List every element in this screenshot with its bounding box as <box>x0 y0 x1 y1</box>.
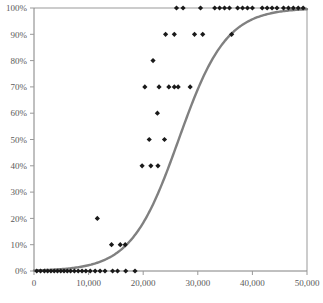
y-tick-label: 80% <box>11 56 28 66</box>
data-point-marker <box>240 5 245 10</box>
y-tick-label: 60% <box>11 108 28 118</box>
logistic-scatter-chart: 0%10%20%30%40%50%60%70%80%90%100% 010,00… <box>0 0 323 303</box>
plot-frame <box>34 8 307 271</box>
data-point-marker <box>115 268 120 273</box>
y-tick-label: 90% <box>11 30 28 40</box>
x-tick-label: 50,000 <box>295 278 320 288</box>
y-tick-label: 0% <box>15 266 28 276</box>
data-point-marker <box>156 84 161 89</box>
data-point-marker <box>97 268 102 273</box>
data-point-marker <box>174 5 179 10</box>
data-point-marker <box>162 137 167 142</box>
data-point-marker <box>265 5 270 10</box>
data-point-marker <box>188 84 193 89</box>
y-tick-label: 30% <box>11 187 28 197</box>
data-points <box>34 5 306 273</box>
data-point-marker <box>93 268 98 273</box>
data-point-marker <box>212 5 217 10</box>
y-tick-label: 20% <box>11 214 28 224</box>
data-point-marker <box>102 268 107 273</box>
x-tick-label: 10,000 <box>76 278 101 288</box>
chart-container: 0%10%20%30%40%50%60%70%80%90%100% 010,00… <box>0 0 323 303</box>
y-axis-ticks: 0%10%20%30%40%50%60%70%80%90%100% <box>6 3 34 276</box>
y-tick-label: 100% <box>6 3 28 13</box>
x-tick-label: 0 <box>32 278 37 288</box>
data-point-marker <box>250 5 255 10</box>
data-point-marker <box>166 84 171 89</box>
data-point-marker <box>150 58 155 63</box>
data-point-marker <box>109 242 114 247</box>
data-point-marker <box>118 242 123 247</box>
data-point-marker <box>269 5 274 10</box>
data-point-marker <box>172 32 177 37</box>
y-tick-label: 10% <box>11 240 28 250</box>
data-point-marker <box>198 5 203 10</box>
data-point-marker <box>132 268 137 273</box>
data-point-marker <box>192 32 197 37</box>
data-point-marker <box>180 5 185 10</box>
data-point-marker <box>155 111 160 116</box>
y-tick-label: 50% <box>11 135 28 145</box>
data-point-marker <box>110 268 115 273</box>
data-point-marker <box>155 163 160 168</box>
data-point-marker <box>163 32 168 37</box>
y-tick-label: 70% <box>11 82 28 92</box>
x-tick-label: 40,000 <box>240 278 265 288</box>
data-point-marker <box>260 5 265 10</box>
data-point-marker <box>200 32 205 37</box>
x-axis-ticks: 010,00020,00030,00040,00050,000 <box>32 271 320 288</box>
data-point-marker <box>274 5 279 10</box>
data-point-marker <box>147 137 152 142</box>
data-point-marker <box>245 5 250 10</box>
data-point-marker <box>217 5 222 10</box>
data-point-marker <box>123 268 128 273</box>
data-point-marker <box>140 163 145 168</box>
y-tick-label: 40% <box>11 161 28 171</box>
data-point-marker <box>95 216 100 221</box>
data-point-marker <box>227 5 232 10</box>
fitted-curve <box>34 9 307 270</box>
x-tick-label: 30,000 <box>185 278 210 288</box>
data-point-marker <box>222 5 227 10</box>
regression-line <box>34 9 307 270</box>
data-point-marker <box>148 163 153 168</box>
x-tick-label: 20,000 <box>131 278 156 288</box>
data-point-marker <box>235 5 240 10</box>
data-point-marker <box>142 84 147 89</box>
data-point-marker <box>176 84 181 89</box>
